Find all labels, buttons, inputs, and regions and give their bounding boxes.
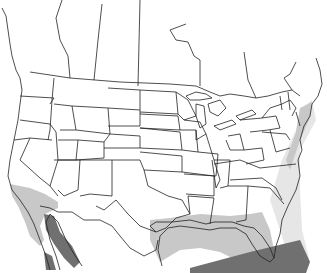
range-map	[0, 0, 327, 273]
map-svg	[0, 0, 327, 273]
us-state-borders	[14, 78, 300, 232]
stippled-range-atlantic-offshore	[270, 100, 316, 262]
us-canada-border	[30, 72, 300, 98]
canada-provinces	[56, 0, 296, 98]
dark-range-gulf-of-california	[44, 214, 80, 270]
great-lakes	[186, 92, 256, 130]
